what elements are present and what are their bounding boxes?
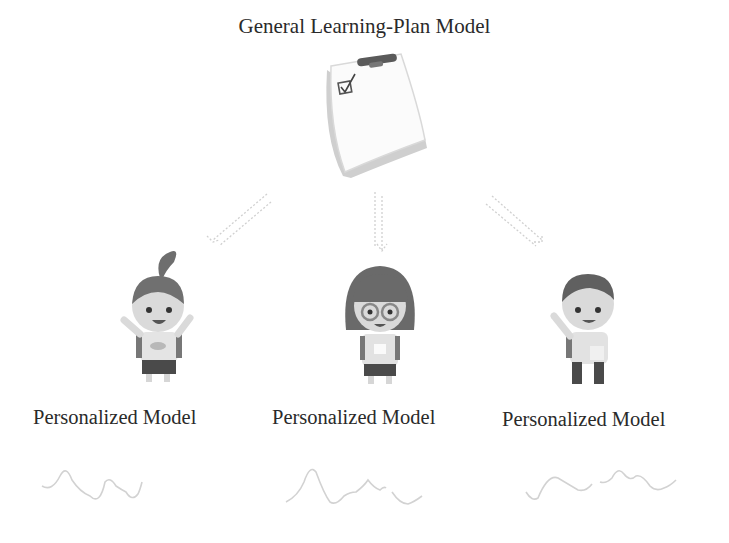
clipboard-checklist-icon <box>315 48 435 188</box>
student-boy-waving-icon <box>540 262 640 392</box>
wavy-line-3 <box>524 464 694 524</box>
wavy-line-2 <box>284 466 444 526</box>
connector-arrow-right <box>480 190 550 250</box>
wavy-line-1 <box>40 460 200 520</box>
student-glasses-icon <box>330 258 430 388</box>
personalized-model-label-1: Personalized Model <box>33 406 196 429</box>
personalized-model-label-2: Personalized Model <box>272 406 435 429</box>
diagram-title: General Learning-Plan Model <box>0 14 729 39</box>
connector-arrow-left <box>205 190 275 250</box>
connector-arrow-center <box>365 188 395 254</box>
student-ponytail-icon <box>110 248 210 388</box>
personalized-model-label-3: Personalized Model <box>502 408 665 431</box>
